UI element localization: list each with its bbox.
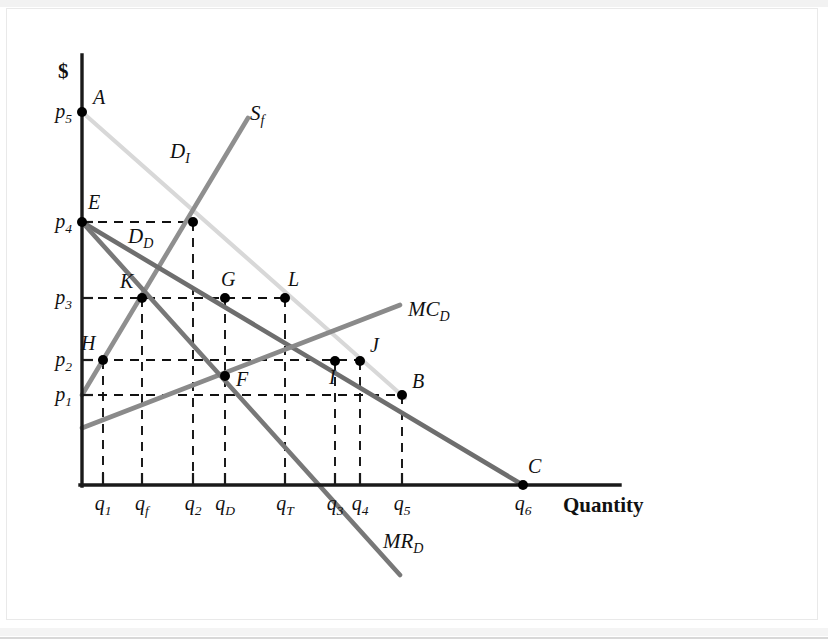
x-tick-label-q3: q3 <box>327 492 344 518</box>
curve-label-s-f: Sf <box>250 101 267 128</box>
curve-label-mr-d: MRD <box>382 529 423 556</box>
curve-s-f <box>82 118 248 395</box>
y-tick-label-p3: p3 <box>53 286 72 312</box>
x-axis-label: Quantity <box>563 493 644 517</box>
point-label-l: L <box>287 268 299 290</box>
point-label-b: B <box>412 370 424 392</box>
x-tick-label-q6: q6 <box>515 492 532 518</box>
data-point-c <box>518 480 528 490</box>
point-label-a: A <box>91 86 106 108</box>
data-point-l <box>280 293 290 303</box>
point-label-h: H <box>80 332 97 354</box>
y-tick-label-p4: p4 <box>53 210 72 236</box>
data-point-a <box>77 107 87 117</box>
curve-label-d-i: DI <box>169 139 191 166</box>
data-point-e <box>77 217 87 227</box>
point-label-f: F <box>235 368 249 390</box>
y-tick-label-p5: p5 <box>53 100 72 126</box>
x-tick-label-q4: q4 <box>352 492 369 518</box>
curve-mc-d <box>82 305 400 428</box>
curve-label-mc-d: MCD <box>407 297 450 324</box>
y-tick-label-p1: p1 <box>53 383 72 409</box>
x-tick-label-qD: qD <box>215 492 235 518</box>
point-label-e: E <box>87 191 100 213</box>
data-point-h <box>98 355 108 365</box>
point-label-k: K <box>119 270 135 292</box>
data-points-group <box>77 107 528 490</box>
data-point-i <box>330 356 340 366</box>
data-point-k <box>137 293 147 303</box>
curve-d-i <box>82 112 405 398</box>
point-label-g: G <box>221 268 236 290</box>
figure-root: AEKGLHFIJBC DISfDDMCDMRD q1qfq2qDqTq3q4q… <box>0 0 828 643</box>
point-label-j: J <box>370 334 380 356</box>
point-label-i: I <box>328 366 337 388</box>
curve-label-d-d: DD <box>127 224 153 251</box>
curve-d-d <box>82 222 523 485</box>
data-point-g <box>220 293 230 303</box>
data-point-j <box>355 356 365 366</box>
economics-supply-demand-chart: AEKGLHFIJBC DISfDDMCDMRD q1qfq2qDqTq3q4q… <box>0 0 828 643</box>
data-point-b <box>397 390 407 400</box>
y-axis-label: $ <box>58 59 69 83</box>
data-point-f <box>220 371 230 381</box>
x-tick-label-q5: q5 <box>394 492 411 518</box>
data-point-q2onsf <box>188 217 198 227</box>
x-tick-label-q1: q1 <box>95 492 112 518</box>
y-tick-label-p2: p2 <box>53 348 72 374</box>
point-label-c: C <box>528 455 542 477</box>
x-tick-label-qT: qT <box>276 492 295 518</box>
x-tick-label-qf: qf <box>135 492 151 518</box>
x-tick-label-q2: q2 <box>185 492 202 518</box>
